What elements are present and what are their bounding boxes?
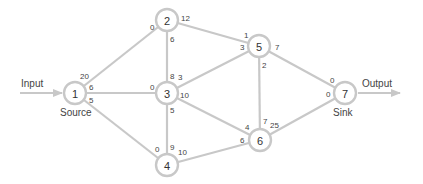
cap-6-7-from: 25 (270, 121, 279, 130)
node-5: 5 (248, 35, 270, 57)
cap-5-7-to: 0 (330, 76, 335, 85)
cap-4-6-to: 6 (240, 136, 245, 145)
edge-5-6 (259, 46, 260, 140)
cap-5-7-from: 7 (275, 43, 280, 52)
node-2-label: 2 (164, 15, 170, 27)
cap-3-6-to: 4 (245, 123, 250, 132)
node-1-label: 1 (72, 88, 78, 100)
cap-1-4-to: 0 (155, 145, 160, 154)
node-3-label: 3 (164, 88, 170, 100)
edge-5-7 (259, 46, 345, 93)
cap-1-2-to: 0 (150, 23, 155, 32)
edge-3-5 (167, 46, 259, 93)
flow-network-diagram: 1 2 3 4 5 6 7 Input Output Source Sink 2… (0, 0, 423, 184)
cap-1-3-from: 6 (89, 83, 94, 92)
source-label: Source (60, 107, 92, 118)
cap-2-5-from: 12 (181, 14, 190, 23)
cap-5-6-to: 7 (263, 117, 268, 126)
cap-3-5-to: 3 (240, 43, 245, 52)
node-7-label: 7 (342, 88, 348, 100)
node-6: 6 (249, 129, 271, 151)
cap-5-6-from: 2 (262, 61, 267, 70)
cap-3-4-from: 5 (170, 106, 175, 115)
node-4-label: 4 (164, 160, 170, 172)
cap-4-6-from: 10 (178, 148, 187, 157)
node-5-label: 5 (256, 41, 262, 53)
node-3: 3 (156, 82, 178, 104)
node-4: 4 (156, 154, 178, 176)
cap-3-5-from: 3 (178, 73, 183, 82)
cap-2-3-to: 8 (170, 72, 175, 81)
input-label: Input (21, 78, 43, 89)
output-label: Output (362, 78, 392, 89)
cap-2-5-to: 1 (244, 31, 249, 40)
cap-1-2-from: 20 (80, 72, 89, 81)
sink-label: Sink (333, 107, 353, 118)
cap-6-7-to: 0 (326, 90, 331, 99)
cap-3-4-to: 9 (170, 143, 175, 152)
cap-1-4-from: 5 (89, 96, 94, 105)
node-7: 7 (334, 82, 356, 104)
node-6-label: 6 (257, 135, 263, 147)
cap-3-6-from: 10 (180, 91, 189, 100)
node-2: 2 (156, 9, 178, 31)
node-1: 1 (64, 82, 86, 104)
cap-1-3-to: 0 (150, 83, 155, 92)
edge-3-6 (167, 93, 260, 140)
cap-2-3-from: 6 (170, 35, 175, 44)
